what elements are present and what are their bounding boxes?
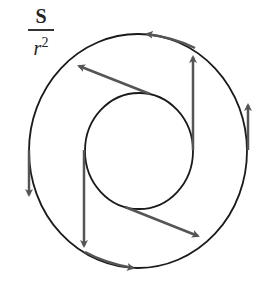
arrow-outer-top-tangent [147, 34, 195, 48]
arrow-outer-bottom-tangent [85, 252, 133, 268]
inner-circle [85, 93, 193, 209]
annulus-diagram [0, 0, 264, 295]
arrow-inner-top-left [79, 66, 150, 94]
outer-circle [29, 34, 247, 268]
arrow-inner-bottom-right [125, 207, 198, 236]
